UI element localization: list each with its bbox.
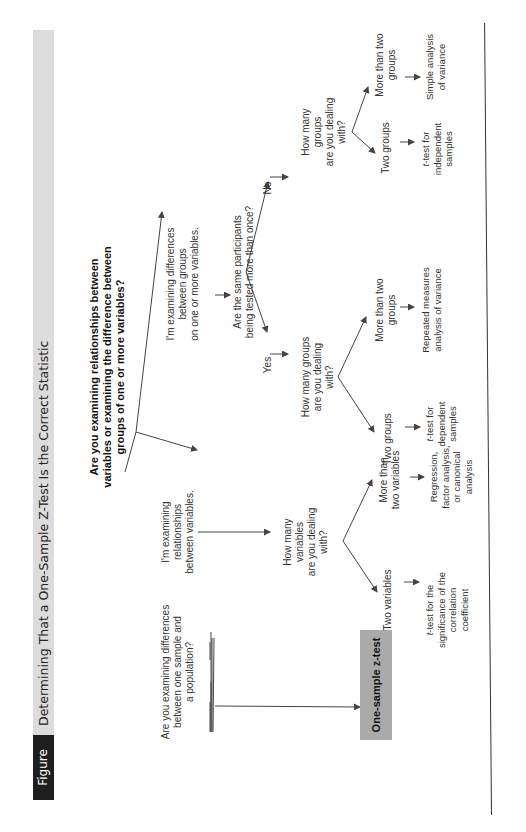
question-line: are you dealing xyxy=(324,98,336,166)
root-question-line: Are you examining relationships between xyxy=(88,246,101,487)
side-question-line: a population? xyxy=(184,605,196,739)
outcome-line: coefficient xyxy=(459,572,471,648)
question-line: How many groups xyxy=(300,337,312,418)
yes-label: Yes xyxy=(262,357,274,373)
side-question-line: Are you examining differences xyxy=(160,605,172,739)
dependent-t-test-outcome: t-test for dependent samples xyxy=(424,402,459,447)
independent-t-test-outcome: t-test for independent samples xyxy=(420,123,455,175)
question-line: are you dealing xyxy=(306,508,318,576)
outcome-line: Regression, xyxy=(428,445,440,508)
outcome-line: samples xyxy=(443,123,455,175)
statement-line: between variables. xyxy=(184,490,196,573)
question-line: variables xyxy=(294,508,306,576)
question-line: being tested more than once? xyxy=(244,206,256,338)
label-line: More than two xyxy=(374,278,386,341)
statement-line: relationships xyxy=(172,490,184,573)
yes-more-than-two-groups-label: More than two groups xyxy=(374,278,398,341)
question-line: How many xyxy=(282,508,294,576)
statement-line: I'm examining xyxy=(160,490,172,573)
relationships-statement: I'm examining relationships between vari… xyxy=(160,490,196,573)
no-label: No xyxy=(262,182,274,195)
label-line: groups xyxy=(386,278,398,341)
correlation-t-test-outcome: t-test for the significance of the corre… xyxy=(424,572,470,648)
regression-outcome: Regression, factor analysis, or canonica… xyxy=(428,445,474,508)
outcome-text: -test for xyxy=(420,132,431,164)
outcome-line: Repeated measures xyxy=(420,267,432,353)
no-two-groups-label: Two groups xyxy=(380,122,392,174)
question-line: with? xyxy=(336,98,348,166)
simple-anova-outcome: Simple analysis of variance xyxy=(424,34,447,100)
side-question: Are you examining differences between on… xyxy=(160,605,196,739)
root-question-line: variables or examining the difference be… xyxy=(101,246,114,487)
outcome-line: correlation xyxy=(447,572,459,648)
t-italic: t xyxy=(424,633,435,636)
yes-two-groups-label: Two groups xyxy=(382,413,394,465)
differences-statement: I'm examining differences between groups… xyxy=(165,227,201,340)
outcome-line: analysis of variance xyxy=(432,267,444,353)
outcome-line: independent xyxy=(432,123,444,175)
repeated-measures-anova-outcome: Repeated measures analysis of variance xyxy=(420,267,443,353)
outcome-line: analysis xyxy=(463,445,475,508)
question-line: with? xyxy=(318,508,330,576)
question-line: are you dealing xyxy=(312,337,324,418)
question-line: groups xyxy=(312,98,324,166)
root-question: Are you examining relationships between … xyxy=(88,246,127,487)
how-many-variables-question: How many variables are you dealing with? xyxy=(282,508,330,576)
statement-line: between groups xyxy=(177,227,189,340)
outcome-line: samples xyxy=(447,402,459,447)
outcome-line: t-test for the xyxy=(424,572,436,648)
no-more-than-two-groups-label: More than two groups xyxy=(374,33,398,96)
side-question-line: between one sample and xyxy=(172,605,184,739)
root-question-line: groups of one or more variables? xyxy=(114,246,127,487)
figure-canvas: Figure 10.1 Determining That a One-Sampl… xyxy=(0,0,526,832)
no-how-many-groups-question: How many groups are you dealing with? xyxy=(300,98,348,166)
statement-line: on one or more variables. xyxy=(189,227,201,340)
outcome-line: dependent xyxy=(436,402,448,447)
t-italic: t xyxy=(424,439,435,442)
outcome-line: or canonical xyxy=(451,445,463,508)
label-line: More than two xyxy=(374,33,386,96)
two-variables-label: Two variables xyxy=(382,569,394,630)
question-line: How many xyxy=(300,98,312,166)
statement-line: I'm examining differences xyxy=(165,227,177,340)
yes-how-many-groups-question: How many groups are you dealing with? xyxy=(300,337,336,418)
outcome-line: factor analysis, xyxy=(440,445,452,508)
question-line: with? xyxy=(324,337,336,418)
outcome-text: -test for xyxy=(424,407,435,439)
outcome-line: of variance xyxy=(436,34,448,100)
outcome-line: significance of the xyxy=(436,572,448,648)
t-italic: t xyxy=(420,164,431,167)
outcome-line: Simple analysis xyxy=(424,34,436,100)
outcome-line: t-test for xyxy=(424,402,436,447)
question-line: Are the same participants xyxy=(232,206,244,338)
one-sample-z-test-result: One-sample z-test xyxy=(360,630,392,740)
label-line: groups xyxy=(386,33,398,96)
outcome-line: t-test for xyxy=(420,123,432,175)
outcome-text: -test for the xyxy=(424,585,435,633)
same-participants-question: Are the same participants being tested m… xyxy=(232,206,256,338)
